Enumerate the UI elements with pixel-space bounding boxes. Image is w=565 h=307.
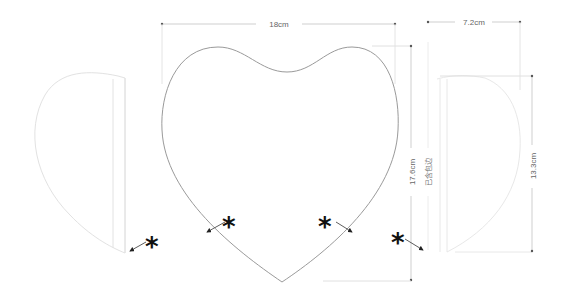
dimension-side-width: 7.2cm <box>427 18 521 90</box>
label-7-2cm: 7.2cm <box>463 18 485 27</box>
asterisk-icon: * <box>318 212 332 242</box>
label-17-6cm: 17.6cm <box>408 159 417 186</box>
label-13-3cm: 13.3cm <box>529 153 538 180</box>
label-includes-binding: 已含包边 <box>424 158 433 186</box>
asterisk-icon: * <box>391 228 405 258</box>
pattern-drawing: 18cm 17.6cm 已含包边 7.2cm 13.3cm * <box>0 0 565 307</box>
asterisk-icon: * <box>145 232 159 262</box>
marker-heart-right: * <box>318 212 352 242</box>
marker-heart-left: * <box>207 212 236 242</box>
marker-right-panel: * <box>391 228 423 258</box>
marker-left-panel: * <box>130 232 159 262</box>
label-18cm: 18cm <box>269 20 289 29</box>
dimension-side-height: 13.3cm <box>440 75 538 252</box>
binding-note: 已含包边 <box>424 42 433 250</box>
right-side-panel <box>437 76 532 253</box>
front-heart-panel <box>162 47 398 282</box>
left-side-panel <box>35 73 125 253</box>
asterisk-icon: * <box>222 212 236 242</box>
